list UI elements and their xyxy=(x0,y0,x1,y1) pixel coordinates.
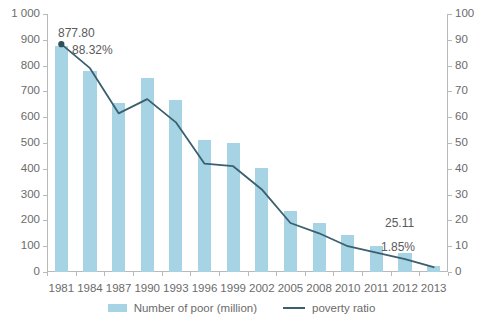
x-axis-tick xyxy=(391,272,392,276)
y-axis-left-tick xyxy=(43,91,47,92)
bar xyxy=(313,223,326,272)
x-axis-tick-label: 1996 xyxy=(190,283,219,295)
x-axis-tick-label: 2008 xyxy=(305,283,334,295)
y-axis-left-tick xyxy=(43,195,47,196)
bar xyxy=(255,168,268,272)
bar-swatch-icon xyxy=(108,304,127,312)
y-axis-right-tick xyxy=(448,14,452,15)
y-axis-right-tick-label: 20 xyxy=(455,214,468,226)
y-axis-right-tick xyxy=(448,91,452,92)
y-axis-left-tick-label: 600 xyxy=(21,111,40,123)
poverty-chart: 01002003004005006007008009001 000 010203… xyxy=(0,0,483,320)
x-axis-tick-label: 2005 xyxy=(276,283,305,295)
y-axis-left-tick-label: 1 000 xyxy=(11,8,40,20)
x-axis-tick-label: 2012 xyxy=(391,283,420,295)
y-axis-left-tick xyxy=(43,66,47,67)
line-swatch-icon xyxy=(283,307,305,309)
y-axis-right-tick-label: 60 xyxy=(455,111,468,123)
y-axis-right-tick xyxy=(448,143,452,144)
x-axis-tick xyxy=(76,272,77,276)
annotation-end-value: 25.11 xyxy=(385,217,414,229)
y-axis-left-tick xyxy=(43,117,47,118)
y-axis-right-tick-label: 90 xyxy=(455,34,468,46)
chart-legend: Number of poor (million) poverty ratio xyxy=(0,303,483,315)
x-axis-tick xyxy=(419,272,420,276)
y-axis-left-tick-label: 800 xyxy=(21,60,40,72)
bar xyxy=(341,235,354,272)
annotation-end-ratio: 1.85% xyxy=(381,241,415,253)
legend-label-poverty-ratio: poverty ratio xyxy=(312,303,375,315)
x-axis-tick xyxy=(104,272,105,276)
x-axis-tick-label: 1987 xyxy=(104,283,133,295)
y-axis-right-tick-label: 80 xyxy=(455,60,468,72)
y-axis-right-tick xyxy=(448,220,452,221)
x-axis-tick xyxy=(448,272,449,276)
y-axis-right-tick-label: 10 xyxy=(455,240,468,252)
y-axis-right-tick xyxy=(448,117,452,118)
x-axis-tick xyxy=(305,272,306,276)
x-axis-tick-label: 1990 xyxy=(133,283,162,295)
y-axis-left-tick xyxy=(43,246,47,247)
annotation-peak-ratio: 88.32% xyxy=(72,44,113,56)
legend-label-number-of-poor: Number of poor (million) xyxy=(134,303,257,315)
x-axis-tick xyxy=(333,272,334,276)
y-axis-right-tick xyxy=(448,195,452,196)
y-axis-right-tick xyxy=(448,40,452,41)
y-axis-left-line xyxy=(47,14,48,272)
y-axis-left-tick-label: 300 xyxy=(21,189,40,201)
y-axis-right-tick-label: 50 xyxy=(455,137,468,149)
x-axis-tick-label: 1984 xyxy=(76,283,105,295)
bar xyxy=(55,46,68,272)
y-axis-left-tick xyxy=(43,143,47,144)
bar xyxy=(83,71,96,272)
y-axis-left-tick-label: 0 xyxy=(34,266,40,278)
y-axis-right-tick xyxy=(448,246,452,247)
bar xyxy=(284,211,297,272)
bar xyxy=(141,78,154,272)
y-axis-left-tick xyxy=(43,40,47,41)
y-axis-left-tick xyxy=(43,14,47,15)
y-axis-left-tick-label: 500 xyxy=(21,137,40,149)
y-axis-left-tick-label: 200 xyxy=(21,214,40,226)
x-axis-tick-label: 1999 xyxy=(219,283,248,295)
bar xyxy=(227,143,240,272)
bar xyxy=(398,253,411,272)
x-axis-tick xyxy=(219,272,220,276)
y-axis-left-tick-label: 400 xyxy=(21,163,40,175)
x-axis-tick-label: 2011 xyxy=(362,283,391,295)
y-axis-left-tick-label: 700 xyxy=(21,85,40,97)
x-axis-tick-label: 1993 xyxy=(162,283,191,295)
bar xyxy=(198,140,211,272)
x-axis-tick xyxy=(190,272,191,276)
y-axis-right-tick xyxy=(448,66,452,67)
y-axis-left-tick xyxy=(43,220,47,221)
y-axis-right-tick-label: 0 xyxy=(455,266,461,278)
y-axis-right-tick-label: 100 xyxy=(455,8,474,20)
annotation-peak-value: 877.80 xyxy=(58,27,95,39)
x-axis-tick-label: 2010 xyxy=(333,283,362,295)
x-axis-tick xyxy=(133,272,134,276)
y-axis-right-tick-label: 40 xyxy=(455,163,468,175)
legend-item-poverty-ratio: poverty ratio xyxy=(283,303,375,315)
x-axis-tick-label: 2013 xyxy=(419,283,448,295)
x-axis-tick xyxy=(362,272,363,276)
y-axis-left-tick-label: 900 xyxy=(21,34,40,46)
y-axis-left-tick xyxy=(43,169,47,170)
bar xyxy=(169,100,182,272)
legend-item-number-of-poor: Number of poor (million) xyxy=(108,303,257,315)
x-axis-tick xyxy=(276,272,277,276)
y-axis-left-tick-label: 100 xyxy=(21,240,40,252)
bar xyxy=(112,103,125,272)
bar xyxy=(427,266,440,272)
y-axis-right-tick-label: 30 xyxy=(455,189,468,201)
x-axis-tick-label: 2002 xyxy=(248,283,277,295)
x-axis-tick xyxy=(162,272,163,276)
x-axis-tick xyxy=(248,272,249,276)
y-axis-right-tick xyxy=(448,169,452,170)
y-axis-right-tick-label: 70 xyxy=(455,85,468,97)
x-axis-tick xyxy=(47,272,48,276)
x-axis-tick-label: 1981 xyxy=(47,283,76,295)
